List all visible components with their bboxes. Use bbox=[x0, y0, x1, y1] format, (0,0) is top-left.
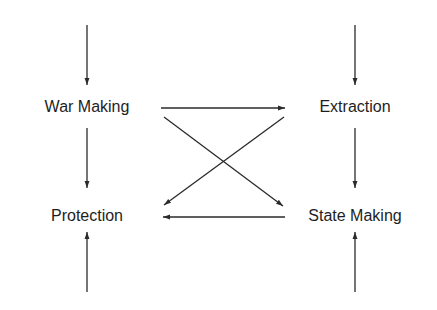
arrows-layer bbox=[0, 0, 437, 310]
node-state-making: State Making bbox=[308, 206, 401, 226]
node-war-making: War Making bbox=[45, 97, 130, 117]
node-extraction: Extraction bbox=[319, 97, 390, 117]
node-protection: Protection bbox=[51, 206, 123, 226]
diagram-canvas: War Making Extraction Protection State M… bbox=[0, 0, 437, 310]
